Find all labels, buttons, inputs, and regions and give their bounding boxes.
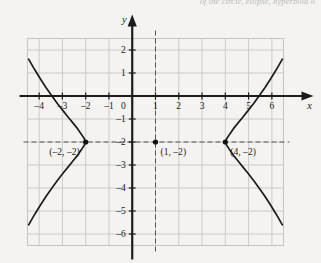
svg-text:0: 0 (121, 100, 126, 111)
svg-text:–1: –1 (115, 113, 126, 124)
svg-text:3: 3 (200, 100, 205, 111)
svg-text:1: 1 (121, 67, 126, 78)
svg-text:–4: –4 (115, 182, 126, 193)
svg-text:2: 2 (176, 100, 181, 111)
svg-text:–5: –5 (115, 205, 126, 216)
svg-text:x: x (306, 100, 312, 111)
svg-text:–6: –6 (115, 228, 126, 239)
svg-text:6: 6 (269, 100, 274, 111)
svg-text:–1: –1 (103, 100, 114, 111)
hyperbola-plot: –4–3–2–112345621–1–2–3–4–5–60xy(–2, –2)(… (0, 0, 321, 263)
svg-text:(4, –2): (4, –2) (230, 146, 256, 158)
svg-text:–2: –2 (115, 136, 126, 147)
axes (20, 15, 314, 260)
svg-text:(–2, –2): (–2, –2) (49, 146, 79, 158)
svg-text:–2: –2 (80, 100, 91, 111)
svg-text:(1, –2): (1, –2) (161, 146, 187, 158)
svg-text:–3: –3 (115, 159, 126, 170)
svg-text:1: 1 (153, 100, 158, 111)
svg-text:–3: –3 (57, 100, 68, 111)
svg-text:4: 4 (223, 100, 228, 111)
svg-text:y: y (121, 14, 127, 25)
svg-text:2: 2 (121, 44, 126, 55)
figure-container: of the circle, ellipse, hyperbola o –4–3… (0, 0, 321, 263)
svg-text:5: 5 (246, 100, 251, 111)
svg-text:–4: –4 (33, 100, 44, 111)
